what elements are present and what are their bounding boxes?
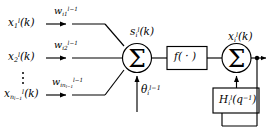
weight-label-win: winl−1l−1 [52,77,83,89]
weight-label-wi1: wi1l−1 [54,6,78,17]
neuron-block-diagram: Σ Σ x1l(k) x2l(k) xnl−1l(k) wi1l−1 wi2l−… [0,0,272,135]
net-input-signal-label: sil(k) [130,26,154,38]
output-signal-label: xil(k) [228,31,253,43]
feedback-filter-label: Hil(q−1) [219,94,256,106]
input-label-x2: x2l(k) [8,51,35,63]
sigma-symbol-input: Σ [128,44,146,73]
diagonal-line-xn [105,70,124,95]
diagram-canvas: Σ Σ [0,0,272,135]
diagonal-line-x1 [105,24,124,46]
weight-label-wi2: wi2l−1 [54,40,78,51]
input-label-xn: xnl−1l(k) [4,88,39,102]
vertical-ellipsis [22,72,24,87]
input-label-x1: x1l(k) [8,17,35,29]
output-tap-junction [255,56,259,60]
bias-label-theta: θil−1 [141,84,161,96]
sigma-symbol-output: Σ [228,44,246,73]
activation-function-label: f( · ) [174,51,196,62]
